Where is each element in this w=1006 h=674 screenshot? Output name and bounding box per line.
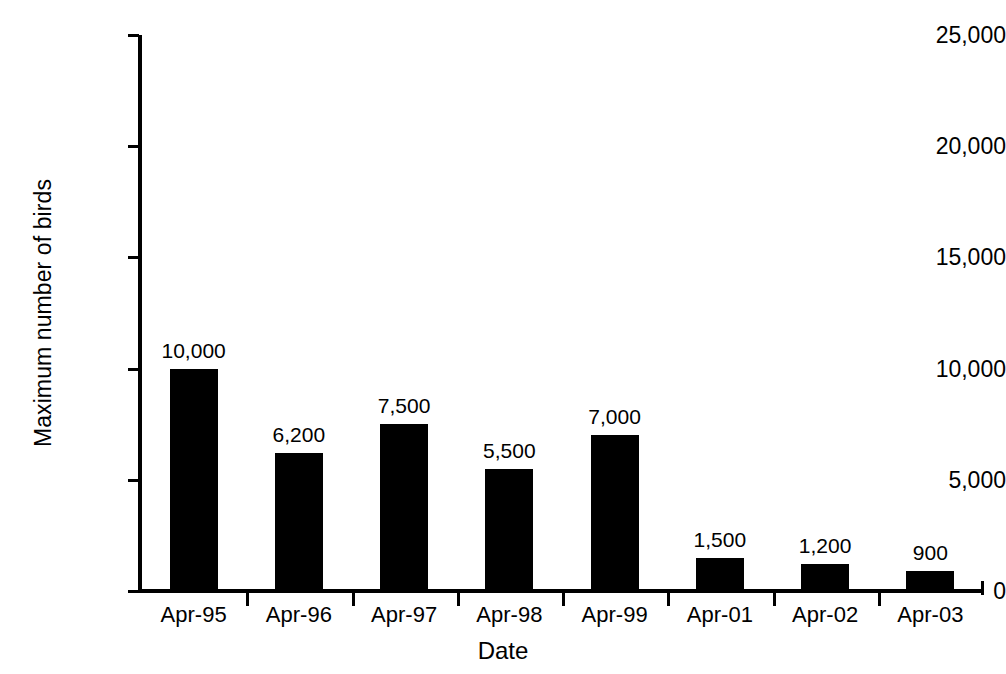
x-tick-mark bbox=[562, 593, 565, 606]
x-tick-mark bbox=[457, 593, 460, 606]
bar-chart: Maximum number of birds 25,00020,00015,0… bbox=[0, 0, 1006, 674]
x-tick-label: Apr-98 bbox=[476, 604, 542, 626]
x-axis-end-tick bbox=[981, 581, 984, 595]
x-tick-mark bbox=[667, 593, 670, 606]
bar-value-label: 900 bbox=[913, 542, 948, 563]
x-axis-line bbox=[138, 589, 984, 593]
bar-value-label: 7,000 bbox=[588, 406, 641, 427]
y-tick-label: 20,000 bbox=[882, 135, 1006, 158]
x-tick-label: Apr-02 bbox=[792, 604, 858, 626]
x-tick-label: Apr-96 bbox=[266, 604, 332, 626]
y-tick-label: 10,000 bbox=[882, 357, 1006, 380]
bar[interactable] bbox=[696, 558, 744, 591]
bar[interactable] bbox=[591, 435, 639, 591]
y-tick-label: 5,000 bbox=[882, 468, 1006, 491]
x-tick-label: Apr-95 bbox=[161, 604, 227, 626]
bar[interactable] bbox=[801, 564, 849, 591]
bar[interactable] bbox=[906, 571, 954, 591]
bar[interactable] bbox=[485, 469, 533, 591]
x-tick-mark bbox=[773, 593, 776, 606]
x-tick-label: Apr-99 bbox=[582, 604, 648, 626]
x-tick-mark bbox=[246, 593, 249, 606]
bar-value-label: 7,500 bbox=[378, 395, 431, 416]
x-tick-label: Apr-97 bbox=[371, 604, 437, 626]
bar-value-label: 6,200 bbox=[273, 424, 326, 445]
y-axis-line bbox=[138, 35, 142, 593]
y-tick-label: 15,000 bbox=[882, 246, 1006, 269]
y-axis-title: Maximum number of birds bbox=[26, 35, 60, 591]
bar[interactable] bbox=[380, 424, 428, 591]
x-tick-label: Apr-01 bbox=[687, 604, 753, 626]
x-axis-title: Date bbox=[0, 637, 1006, 665]
bar-value-label: 5,500 bbox=[483, 440, 536, 461]
bar[interactable] bbox=[275, 453, 323, 591]
bar-value-label: 10,000 bbox=[162, 340, 226, 361]
bar-value-label: 1,200 bbox=[799, 535, 852, 556]
x-tick-mark bbox=[878, 593, 881, 606]
y-tick-label: 25,000 bbox=[882, 24, 1006, 47]
x-tick-mark bbox=[352, 593, 355, 606]
bar-value-label: 1,500 bbox=[694, 529, 747, 550]
x-tick-label: Apr-03 bbox=[897, 604, 963, 626]
bar[interactable] bbox=[170, 369, 218, 591]
